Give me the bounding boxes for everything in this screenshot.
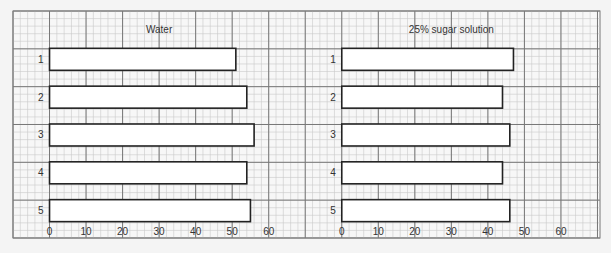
x-tick-label: 10 [80, 226, 92, 237]
bar [342, 124, 510, 146]
x-tick-label: 50 [227, 226, 239, 237]
x-tick-label: 10 [373, 226, 385, 237]
bar [342, 200, 510, 222]
category-label: 4 [38, 167, 44, 178]
bar [50, 48, 236, 70]
bar [50, 200, 251, 222]
chart-title: Water [146, 24, 173, 35]
category-label: 5 [330, 205, 336, 216]
x-tick-label: 30 [154, 226, 166, 237]
x-tick-label: 50 [519, 226, 531, 237]
chart-title: 25% sugar solution [409, 24, 494, 35]
bar [342, 162, 503, 184]
bar [50, 162, 247, 184]
x-tick-label: 40 [482, 226, 494, 237]
bar [50, 124, 255, 146]
x-tick-label: 30 [446, 226, 458, 237]
bar-charts-svg: Water 123450102030405060 25% sugar solut… [0, 0, 611, 253]
x-tick-label: 20 [409, 226, 421, 237]
bar [342, 48, 514, 70]
x-tick-label: 40 [190, 226, 202, 237]
x-tick-label: 0 [47, 226, 53, 237]
category-label: 2 [330, 92, 336, 103]
category-label: 4 [330, 167, 336, 178]
category-label: 2 [38, 92, 44, 103]
x-tick-label: 20 [117, 226, 129, 237]
category-label: 3 [330, 129, 336, 140]
x-tick-label: 60 [263, 226, 275, 237]
bar [50, 86, 247, 108]
bar [342, 86, 503, 108]
category-label: 1 [38, 54, 44, 65]
graph-paper-figure: Water 123450102030405060 25% sugar solut… [0, 0, 611, 253]
x-tick-label: 60 [555, 226, 567, 237]
category-label: 1 [330, 54, 336, 65]
x-tick-label: 0 [339, 226, 345, 237]
category-label: 3 [38, 129, 44, 140]
category-label: 5 [38, 205, 44, 216]
